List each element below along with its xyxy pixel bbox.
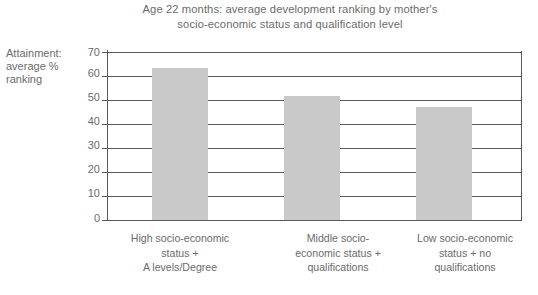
y-tick-mark-40	[102, 124, 107, 125]
y-tick-label-10: 10	[74, 188, 100, 199]
y-tick-label-0: 0	[74, 213, 100, 224]
chart-title: Age 22 months: average development ranki…	[120, 2, 460, 32]
y-axis-title: Attainment: average % ranking	[6, 47, 80, 86]
axis-baseline	[107, 220, 522, 221]
y-tick-mark-10	[102, 196, 107, 197]
y-tick-label-70: 70	[74, 47, 100, 58]
bar-high-socio-economic	[152, 68, 208, 220]
y-tick-mark-60	[102, 76, 107, 77]
y-tick-label-20: 20	[74, 164, 100, 175]
gridline-70	[107, 52, 522, 53]
bar-low-socio-economic	[416, 107, 472, 220]
category-label-0: High socio-economic status + A levels/De…	[92, 231, 268, 275]
category-label-1: Middle socio- economic status + qualific…	[268, 231, 408, 275]
y-tick-label-40: 40	[74, 116, 100, 127]
y-tick-mark-20	[102, 172, 107, 173]
bar-middle-socio-economic	[284, 96, 340, 220]
category-label-2: Low socio-economic status + no qualifica…	[398, 231, 532, 275]
y-tick-label-50: 50	[74, 92, 100, 103]
y-tick-label-30: 30	[74, 140, 100, 151]
y-tick-mark-30	[102, 148, 107, 149]
y-tick-mark-70	[102, 52, 107, 53]
y-tick-label-60: 60	[74, 68, 100, 79]
y-tick-mark-50	[102, 100, 107, 101]
y-tick-mark-0	[102, 220, 107, 221]
